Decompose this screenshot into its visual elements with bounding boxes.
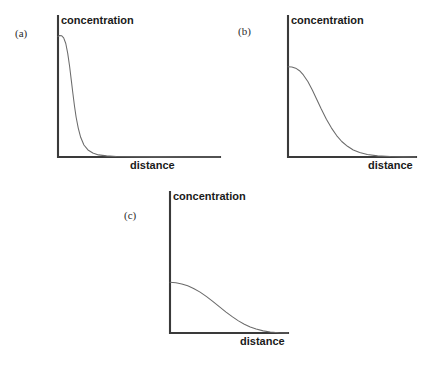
panel-c-plot	[0, 0, 432, 365]
figure-concentration-distance-profiles: (a) concentration distance (b) concentra…	[0, 0, 432, 365]
panel-c-curve	[170, 282, 288, 333]
panel-c-axes	[170, 192, 288, 333]
